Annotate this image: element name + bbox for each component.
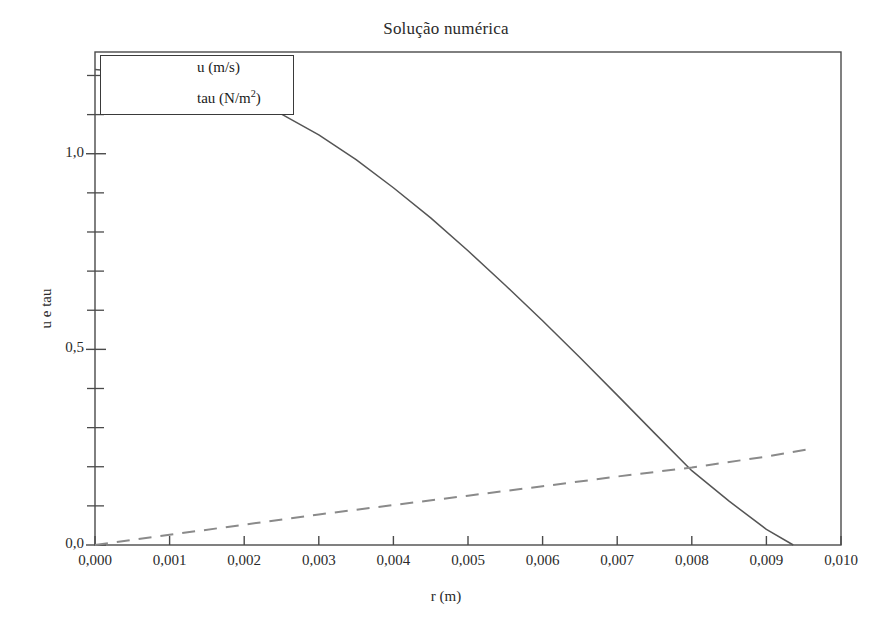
legend-item-tau: tau (N/m2): [101, 85, 293, 114]
plot-frame: [95, 52, 841, 545]
x-tick-label: 0,004: [353, 552, 433, 569]
series-line-tau: [95, 449, 811, 545]
x-tick-label: 0,010: [801, 552, 881, 569]
legend: u (m/s) tau (N/m2): [100, 55, 294, 115]
x-tick-label: 0,009: [726, 552, 806, 569]
legend-label-tau: tau (N/m2): [197, 88, 261, 107]
legend-item-u: u (m/s): [101, 56, 293, 85]
x-tick-label: 0,005: [428, 552, 508, 569]
series-line-u: [95, 70, 793, 545]
numerical-solution-chart: Solução numérica u e tau r (m) 0,0000,00…: [0, 0, 892, 627]
x-axis-label: r (m): [0, 588, 892, 605]
x-tick-label: 0,000: [55, 552, 135, 569]
y-tick-label: 1,0: [18, 144, 84, 161]
x-tick-label: 0,006: [503, 552, 583, 569]
y-tick-label: 0,5: [18, 339, 84, 356]
x-tick-label: 0,001: [130, 552, 210, 569]
chart-title: Solução numérica: [0, 19, 892, 39]
legend-label-u: u (m/s): [197, 59, 240, 76]
y-tick-label: 0,0: [18, 535, 84, 552]
x-tick-label: 0,003: [279, 552, 359, 569]
x-tick-label: 0,002: [204, 552, 284, 569]
x-tick-label: 0,007: [577, 552, 657, 569]
x-tick-label: 0,008: [652, 552, 732, 569]
